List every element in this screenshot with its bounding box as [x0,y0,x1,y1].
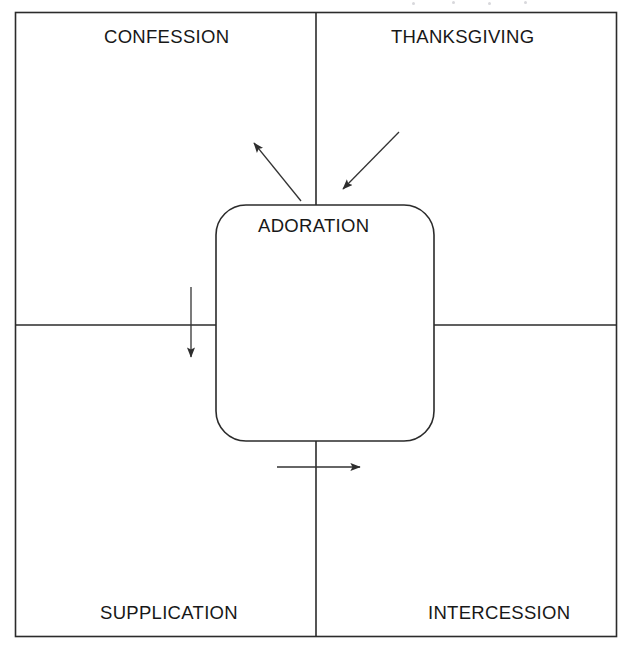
quadrant-label-intercession: INTERCESSION [428,604,570,623]
center-node-label-adoration: ADORATION [258,217,369,236]
scan-artifact [524,1,527,4]
diagram-canvas: CONFESSION THANKSGIVING SUPPLICATION INT… [0,0,629,649]
quadrant-label-thanksgiving: THANKSGIVING [391,28,534,47]
quadrant-label-supplication: SUPPLICATION [100,604,238,623]
center-node-shape [216,205,434,441]
scan-artifact [488,2,491,5]
scan-artifact [412,2,415,5]
scan-artifact [452,1,455,4]
quadrant-label-confession: CONFESSION [104,28,229,47]
prayer-quadrant-diagram [0,0,629,649]
